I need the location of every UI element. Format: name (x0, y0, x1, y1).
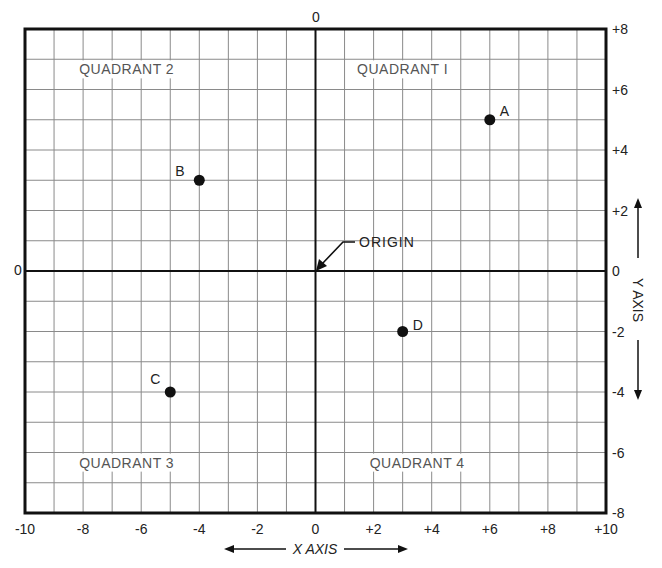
x-tick-label: +10 (594, 521, 618, 537)
y-tick-label: +4 (612, 142, 628, 158)
y-tick-label: -8 (612, 505, 625, 521)
point-label: B (175, 163, 184, 179)
origin-arrow-line (322, 242, 355, 264)
x-axis-label: X AXIS (292, 541, 338, 557)
x-tick-label: -6 (135, 521, 148, 537)
data-points: ABCD (150, 103, 510, 398)
x-tick-label: +8 (540, 521, 556, 537)
point-label: D (413, 317, 423, 333)
data-point-b: B (175, 163, 205, 186)
y-tick-label: +2 (612, 203, 628, 219)
y-tick-label: 0 (612, 263, 620, 279)
quadrant-labels: QUADRANT IQUADRANT 2QUADRANT 3QUADRANT 4 (75, 60, 468, 471)
quadrant-label: QUADRANT 4 (366, 454, 469, 472)
point-marker-icon (484, 114, 495, 125)
point-marker-icon (165, 387, 176, 398)
x-axis-left-arrow-icon (224, 545, 234, 553)
data-point-d: D (397, 317, 423, 338)
data-point-a: A (484, 103, 510, 126)
x-tick-label: +2 (366, 521, 382, 537)
x-tick-label: +4 (424, 521, 440, 537)
quadrant-label: QUADRANT I (353, 60, 452, 78)
x-tick-label: -2 (251, 521, 264, 537)
y-tick-label: +8 (612, 21, 628, 37)
data-point-c: C (150, 371, 176, 398)
point-label: A (500, 103, 510, 119)
quadrant-label-text: QUADRANT I (357, 61, 448, 77)
y-axis-title: Y AXIS (630, 198, 646, 400)
origin-annotation: ORIGIN (316, 234, 415, 271)
quadrant-label: QUADRANT 3 (75, 454, 178, 472)
y-axis-down-arrow-icon (634, 390, 642, 400)
x-tick-label: +6 (482, 521, 498, 537)
y-tick-label: -2 (612, 324, 625, 340)
origin-label: ORIGIN (359, 234, 415, 250)
y-tick-label: -6 (612, 445, 625, 461)
x-axis-title: X AXIS (224, 541, 408, 557)
x-tick-label: 0 (312, 521, 320, 537)
x-axis-right-arrow-icon (398, 545, 408, 553)
y-tick-label: -4 (612, 384, 625, 400)
coordinate-plane-chart: QUADRANT IQUADRANT 2QUADRANT 3QUADRANT 4… (0, 0, 662, 568)
top-zero-label: 0 (312, 9, 320, 25)
point-marker-icon (194, 175, 205, 186)
y-axis-up-arrow-icon (634, 198, 642, 208)
point-label: C (150, 371, 160, 387)
x-tick-label: -4 (193, 521, 206, 537)
quadrant-label-text: QUADRANT 3 (79, 455, 174, 471)
x-tick-label: -10 (15, 521, 35, 537)
x-tick-label: -8 (77, 521, 90, 537)
y-tick-labels: +8+6+4+20-2-4-6-8 (612, 21, 628, 521)
x-tick-labels: -10-8-6-4-20+2+4+6+8+10 (15, 521, 618, 537)
y-tick-label: +6 (612, 82, 628, 98)
quadrant-label-text: QUADRANT 2 (79, 61, 174, 77)
y-axis-label: Y AXIS (630, 278, 646, 322)
point-marker-icon (397, 326, 408, 337)
left-zero-label: 0 (14, 262, 22, 278)
quadrant-label: QUADRANT 2 (75, 60, 178, 78)
quadrant-label-text: QUADRANT 4 (370, 455, 465, 471)
